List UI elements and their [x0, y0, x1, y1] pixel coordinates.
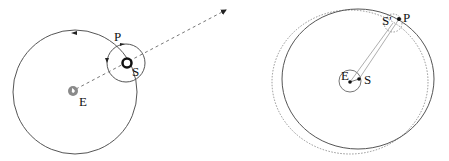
- sun-to-planet-line: [359, 19, 399, 79]
- planet-dot-icon: [397, 17, 401, 21]
- earth-label-right: E: [341, 68, 349, 83]
- left-diagram: E S P: [13, 10, 226, 154]
- planet-label: P: [114, 29, 121, 44]
- right-diagram: E S S' P: [272, 9, 434, 154]
- sun-label: S: [132, 64, 139, 79]
- sun-label-right: S: [364, 72, 371, 87]
- sun-prime-label: S': [382, 13, 392, 28]
- planet-label-right: P: [403, 10, 410, 25]
- deferent-direction-arrow-icon: [71, 31, 77, 35]
- earth-icon: [68, 86, 78, 96]
- earth-to-sun-prime-line: [350, 23, 393, 82]
- epicycle-direction-arrow-icon: [105, 58, 109, 63]
- diagram-canvas: E S P E S S' P: [0, 0, 449, 161]
- line-of-sight: [76, 10, 226, 89]
- sun-dot-icon: [357, 77, 361, 81]
- earth-label: E: [79, 94, 87, 109]
- sun-icon: [123, 59, 132, 68]
